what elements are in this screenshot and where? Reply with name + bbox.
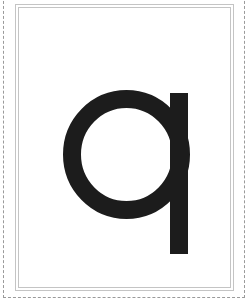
letter-q-glyph xyxy=(0,0,249,303)
letter-q-bowl xyxy=(72,99,181,210)
letter-q-stem xyxy=(170,93,188,254)
